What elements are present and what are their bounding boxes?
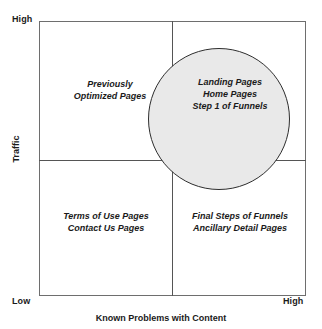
- y-axis-title: Traffic: [11, 119, 21, 179]
- quadrant-top-left-line-2: Optimized Pages: [55, 90, 165, 102]
- quadrant-top-left-line-1: Previously: [55, 78, 165, 90]
- x-axis-title: Known Problems with Content: [0, 313, 322, 323]
- quadrant-top-right-line-3: Step 1 of Funnels: [174, 100, 286, 112]
- quadrant-label-bottom-left: Terms of Use Pages Contact Us Pages: [46, 210, 166, 234]
- quadrant-bottom-left-line-2: Contact Us Pages: [46, 222, 166, 234]
- x-axis-high-label: High: [283, 296, 303, 307]
- quadrant-bottom-right-line-1: Final Steps of Funnels: [178, 210, 302, 222]
- quadrant-bottom-right-line-2: Ancillary Detail Pages: [178, 222, 302, 234]
- highlight-circle-shape: [148, 48, 290, 190]
- x-axis-low-label: Low: [12, 296, 30, 307]
- quadrant-top-right-line-2: Home Pages: [174, 88, 286, 100]
- quadrant-matrix-chart: High Traffic Previously Optimized Pages …: [0, 0, 322, 329]
- quadrant-bottom-left-line-1: Terms of Use Pages: [46, 210, 166, 222]
- y-axis-high-label: High: [12, 14, 32, 25]
- quadrant-label-bottom-right: Final Steps of Funnels Ancillary Detail …: [178, 210, 302, 234]
- quadrant-label-top-left: Previously Optimized Pages: [55, 78, 165, 102]
- quadrant-top-right-line-1: Landing Pages: [174, 76, 286, 88]
- quadrant-label-top-right: Landing Pages Home Pages Step 1 of Funne…: [174, 76, 286, 112]
